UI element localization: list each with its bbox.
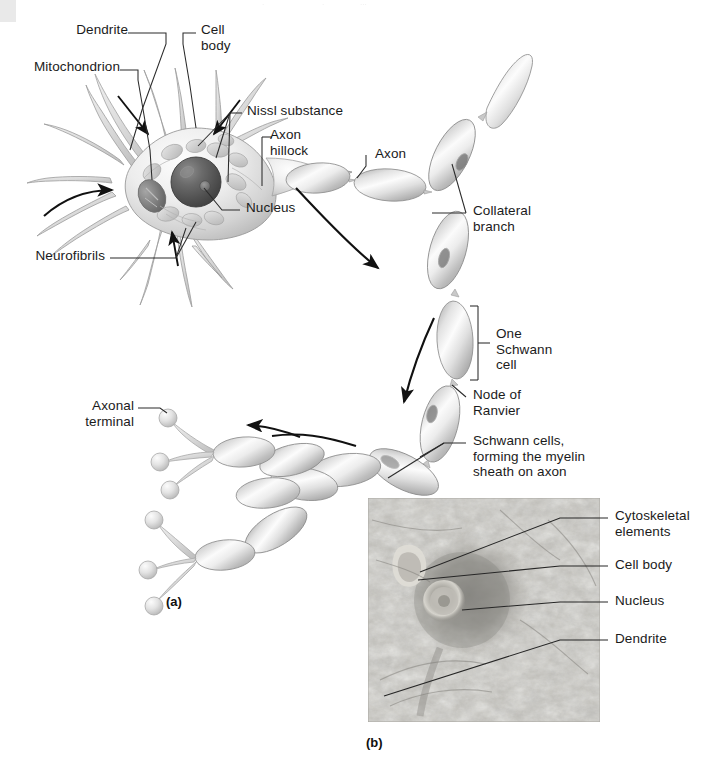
label-dendrite-micrograph: Dendrite xyxy=(615,631,667,647)
label-cytoskeletal-elements: Cytoskeletal elements xyxy=(615,508,690,539)
micrograph-panel xyxy=(368,498,600,722)
leader-cell-body xyxy=(183,33,196,128)
schwann-segment-2 xyxy=(353,167,427,204)
schwann-segment-one-cell xyxy=(435,300,475,380)
myelin-sheath-segments xyxy=(194,54,533,573)
axonal-terminal-bouton xyxy=(151,453,169,471)
panel-a-caption: (a) xyxy=(166,594,182,609)
label-neurofibrils: Neurofibrils xyxy=(0,248,105,264)
label-nissl-substance: Nissl substance xyxy=(247,103,343,119)
label-axonal-terminal: Axonal terminal xyxy=(0,398,134,429)
axonal-terminal-group xyxy=(139,409,214,615)
label-axon-hillock: Axon hillock xyxy=(270,127,308,158)
label-dendrite: Dendrite xyxy=(0,22,128,38)
axonal-terminal-bouton xyxy=(161,481,179,499)
label-cell-body-micrograph: Cell body xyxy=(615,557,672,573)
neuron-illustration xyxy=(0,0,713,772)
neuron-figure: ..... xyxy=(0,0,713,772)
label-one-schwann-cell: One Schwann cell xyxy=(496,326,552,373)
label-nucleus-micrograph: Nucleus xyxy=(615,593,664,609)
collateral-segment-lower xyxy=(419,113,485,198)
axonal-terminal-bouton xyxy=(145,597,163,615)
node-of-ranvier-gap xyxy=(450,379,458,386)
label-cell-body: Cell body xyxy=(201,22,231,53)
axonal-terminal-bouton xyxy=(159,409,177,427)
collateral-segment-upper xyxy=(486,54,533,128)
axonal-terminal-bouton xyxy=(145,511,163,529)
label-collateral-branch: Collateral branch xyxy=(473,203,531,234)
impulse-arrow-2 xyxy=(404,318,434,402)
label-axon: Axon xyxy=(375,146,406,162)
label-mitochondrion: Mitochondrion xyxy=(0,59,120,75)
panel-b-caption: (b) xyxy=(366,735,383,750)
label-schwann-cells-myelin: Schwann cells, forming the myelin sheath… xyxy=(473,433,585,480)
label-node-of-ranvier: Node of Ranvier xyxy=(473,387,521,418)
axonal-terminal-bouton xyxy=(139,561,157,579)
label-nucleus: Nucleus xyxy=(246,200,295,216)
impulse-arrow-1 xyxy=(296,188,378,268)
schwann-segment-4 xyxy=(413,382,467,466)
